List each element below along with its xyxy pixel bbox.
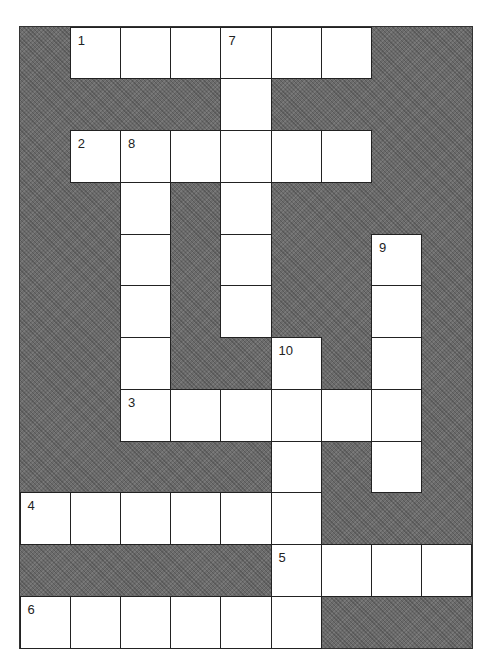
crossword-cell[interactable] (271, 27, 322, 80)
blocked-cell (271, 234, 321, 286)
crossword-cell[interactable] (271, 492, 322, 545)
crossword-cell[interactable] (220, 130, 271, 183)
blocked-cell (422, 493, 472, 545)
crossword-cell[interactable] (220, 492, 271, 545)
crossword-cell[interactable] (120, 596, 171, 649)
crossword-cell[interactable] (170, 596, 221, 649)
crossword-cell[interactable] (120, 492, 171, 545)
crossword-grid: 17289103456 (20, 27, 472, 648)
blocked-cell (70, 234, 120, 286)
crossword-cell[interactable] (421, 544, 472, 597)
blocked-cell (422, 131, 472, 183)
clue-number: 8 (128, 137, 135, 150)
crossword-cell[interactable] (321, 130, 372, 183)
crossword-cell[interactable] (220, 234, 271, 287)
crossword-cell[interactable] (120, 337, 171, 390)
crossword-cell[interactable] (120, 234, 171, 287)
crossword-cell[interactable] (70, 596, 121, 649)
crossword-cell[interactable] (371, 285, 422, 338)
blocked-cell (221, 338, 271, 390)
blocked-cell (70, 389, 120, 441)
blocked-cell (70, 182, 120, 234)
crossword-cell[interactable]: 1 (70, 27, 121, 80)
crossword-cell[interactable] (120, 27, 171, 80)
crossword-cell[interactable] (220, 285, 271, 338)
crossword-cell[interactable]: 5 (271, 544, 322, 597)
crossword-cell[interactable]: 9 (371, 234, 422, 287)
crossword-cell[interactable] (271, 441, 322, 494)
blocked-cell (321, 182, 371, 234)
blocked-cell (321, 596, 371, 648)
blocked-cell (321, 493, 371, 545)
crossword-cell[interactable] (120, 285, 171, 338)
crossword-cell[interactable]: 8 (120, 130, 171, 183)
crossword-cell[interactable] (271, 130, 322, 183)
blocked-cell (20, 389, 70, 441)
blocked-cell (372, 596, 422, 648)
crossword-cell[interactable] (220, 78, 271, 131)
crossword-cell[interactable]: 4 (20, 492, 71, 545)
blocked-cell (20, 286, 70, 338)
clue-number: 2 (78, 137, 85, 150)
blocked-cell (171, 545, 221, 597)
blocked-cell (372, 27, 422, 79)
blocked-cell (321, 338, 371, 390)
blocked-cell (372, 182, 422, 234)
crossword-cell[interactable] (371, 337, 422, 390)
blocked-cell (120, 441, 170, 493)
crossword-cell[interactable] (271, 596, 322, 649)
crossword-cell[interactable]: 10 (271, 337, 322, 390)
crossword-cell[interactable] (371, 544, 422, 597)
crossword-cell[interactable] (220, 389, 271, 442)
blocked-cell (372, 131, 422, 183)
crossword-cell[interactable] (170, 492, 221, 545)
clue-number: 6 (28, 603, 35, 616)
blocked-cell (422, 182, 472, 234)
blocked-cell (271, 79, 321, 131)
blocked-cell (171, 338, 221, 390)
crossword-cell[interactable] (170, 130, 221, 183)
blocked-cell (70, 545, 120, 597)
blocked-cell (321, 79, 371, 131)
blocked-cell (70, 338, 120, 390)
blocked-cell (221, 545, 271, 597)
blocked-cell (20, 182, 70, 234)
crossword-cell[interactable]: 3 (120, 389, 171, 442)
crossword-cell[interactable]: 6 (20, 596, 71, 649)
blocked-cell (20, 27, 70, 79)
clue-number: 3 (128, 396, 135, 409)
crossword-cell[interactable] (120, 182, 171, 235)
crossword-cell[interactable] (371, 441, 422, 494)
blocked-cell (321, 441, 371, 493)
blocked-cell (271, 286, 321, 338)
blocked-cell (20, 131, 70, 183)
crossword-cell[interactable] (321, 27, 372, 80)
crossword-cell[interactable] (321, 544, 372, 597)
blocked-cell (171, 441, 221, 493)
blocked-cell (422, 79, 472, 131)
crossword-cell[interactable] (271, 389, 322, 442)
crossword-cell[interactable]: 7 (220, 27, 271, 80)
clue-number: 1 (78, 34, 85, 47)
blocked-cell (372, 79, 422, 131)
crossword-cell[interactable] (321, 389, 372, 442)
clue-number: 10 (279, 344, 293, 357)
blocked-cell (422, 389, 472, 441)
crossword-cell[interactable] (220, 596, 271, 649)
blocked-cell (422, 27, 472, 79)
crossword-cell[interactable] (220, 182, 271, 235)
blocked-cell (70, 441, 120, 493)
blocked-cell (372, 493, 422, 545)
crossword-cell[interactable]: 2 (70, 130, 121, 183)
crossword-cell[interactable] (371, 389, 422, 442)
blocked-cell (70, 286, 120, 338)
blocked-cell (20, 79, 70, 131)
crossword-cell[interactable] (170, 27, 221, 80)
clue-number: 5 (279, 551, 286, 564)
crossword-cell[interactable] (70, 492, 121, 545)
blocked-cell (221, 441, 271, 493)
blocked-cell (20, 441, 70, 493)
clue-number: 4 (28, 499, 35, 512)
crossword-cell[interactable] (170, 389, 221, 442)
blocked-cell (422, 338, 472, 390)
